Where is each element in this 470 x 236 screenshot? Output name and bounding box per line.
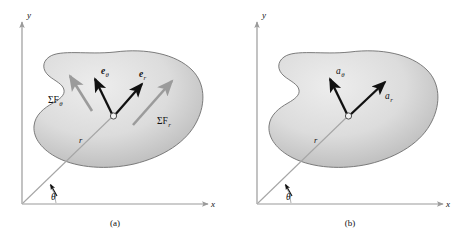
- x-axis-label-a: x: [210, 199, 215, 209]
- sum-f-theta-label-main: ΣF: [48, 95, 59, 105]
- particle-point-b: [345, 113, 351, 119]
- sum-f-r-label-sub: r: [168, 121, 171, 128]
- polar-coordinates-figure: y x r θ ΣFθ eθ er: [0, 0, 470, 236]
- particle-body-blob-a: [34, 51, 203, 168]
- e-r-label-sub: r: [144, 74, 147, 81]
- panel-caption-b: (b): [345, 218, 356, 228]
- panel-caption-a: (a): [110, 218, 120, 228]
- particle-point-a: [110, 113, 116, 119]
- theta-label-a: θ: [51, 192, 56, 202]
- panel-b: y x r θ aθ ar (b): [257, 10, 450, 228]
- figure-root: y x r θ ΣFθ eθ er: [0, 0, 470, 236]
- x-axis-label-b: x: [445, 199, 450, 209]
- particle-body-blob-b: [269, 51, 438, 168]
- panel-a: y x r θ ΣFθ eθ er: [22, 10, 215, 228]
- theta-label-b: θ: [286, 192, 291, 202]
- sum-f-r-label-main: ΣF: [157, 116, 168, 126]
- y-axis-label-a: y: [26, 10, 31, 20]
- y-axis-label-b: y: [261, 10, 266, 20]
- a-r-label-sub: r: [390, 96, 393, 103]
